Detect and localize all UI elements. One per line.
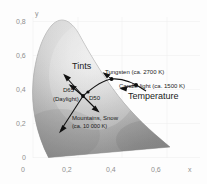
y-tick-0: 0 [22, 154, 26, 161]
x-tick-06: 0,6 [151, 166, 161, 173]
d65-daylight-label: (Daylight) [53, 96, 79, 102]
mountains-snow-kelvin-label: (ca. 10 000 K) [72, 124, 107, 130]
y-axis-label: y [35, 10, 39, 17]
point-d50 [86, 90, 89, 93]
temperature-label: Temperature [128, 92, 179, 101]
y-tick-02: 0,2 [16, 120, 26, 127]
tints-label: Tints [72, 62, 91, 71]
point-d65 [81, 94, 85, 98]
d65-label: D65 [63, 87, 74, 93]
x-axis-label: x [188, 166, 192, 173]
x-tick-0: 0 [21, 166, 25, 173]
x-tick-02: 0,2 [62, 166, 72, 173]
x-tick-04: 0,4 [106, 166, 116, 173]
mountains-snow-label: Mountains, Snow [72, 115, 118, 121]
candle-light-label: Candle light (ca. 1500 K) [119, 83, 185, 89]
y-tick-06: 0,6 [16, 52, 26, 59]
tungsten-label: Tungsten (ca. 2700 K) [105, 69, 164, 75]
y-tick-08: 0,8 [16, 18, 26, 25]
d50-label: D50 [89, 95, 100, 101]
chromaticity-diagram-figure: y x 0 0,2 0,4 0,6 0,8 0 0,2 0,4 0,6 Tint… [0, 0, 207, 184]
y-tick-04: 0,4 [16, 86, 26, 93]
